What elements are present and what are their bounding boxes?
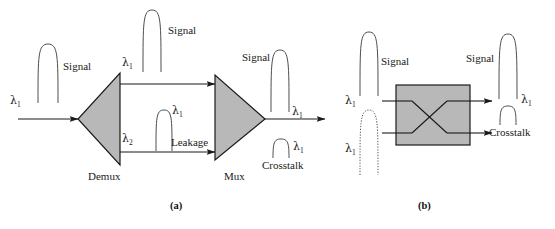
input-top-signal-pulse-b xyxy=(360,32,378,96)
label-input-signal-b: Signal xyxy=(381,56,409,67)
input-bottom-signal-pulse-b xyxy=(360,110,378,175)
panel-caption-a: (a) xyxy=(170,200,182,211)
crosstalk-pulse-a xyxy=(273,139,289,158)
label-output-signal-b: Signal xyxy=(466,53,494,64)
label-crosstalk-wavelength-a: λ1 xyxy=(293,141,304,155)
label-demux-out-top-wavelength: λ1 xyxy=(122,57,133,71)
crosstalk-pulse-b xyxy=(500,106,516,125)
label-crosstalk-a: Crosstalk xyxy=(262,160,304,171)
output-signal-pulse-a xyxy=(271,50,289,112)
top-signal-pulse-a xyxy=(143,10,161,72)
label-crosstalk-b: Crosstalk xyxy=(489,127,531,138)
leakage-pulse-a xyxy=(156,110,172,151)
crossconnect-switch-box xyxy=(396,85,470,145)
label-demux-out-bottom-wavelength: λ2 xyxy=(122,133,133,147)
diagram-canvas xyxy=(0,0,555,229)
label-leakage: Leakage xyxy=(171,137,208,148)
label-output-signal-a: Signal xyxy=(242,52,270,63)
input-signal-pulse-a xyxy=(38,44,58,103)
label-input-top-wavelength-b: λ1 xyxy=(345,95,356,109)
label-demux: Demux xyxy=(88,171,120,182)
label-input-bottom-wavelength-b: λ1 xyxy=(345,143,356,157)
label-output-signal-wavelength-a: λ1 xyxy=(292,106,303,120)
panel-caption-b: (b) xyxy=(418,200,431,211)
label-top-signal-a: Signal xyxy=(168,25,196,36)
mux-triangle xyxy=(215,75,265,160)
demux-triangle xyxy=(78,73,120,165)
label-input-signal-a: Signal xyxy=(63,61,91,72)
figure-crosstalk-diagram: λ1 Signal λ1 λ2 Signal λ1 Leakage Demux … xyxy=(0,0,555,229)
label-output-signal-wavelength-b: λ1 xyxy=(521,94,532,108)
label-leakage-wavelength: λ1 xyxy=(172,105,183,119)
label-mux: Mux xyxy=(224,171,245,182)
label-input-wavelength-a: λ1 xyxy=(10,95,21,109)
output-signal-pulse-b xyxy=(499,34,517,99)
